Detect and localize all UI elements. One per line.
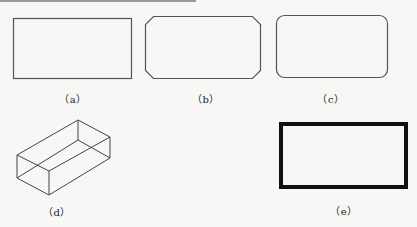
label-a: （a） (59, 91, 86, 106)
label-c: （c） (317, 91, 344, 106)
panel-c-rounded-rectangle (277, 16, 388, 78)
label-d: （d） (43, 204, 71, 219)
panel-e-thick-rectangle (281, 124, 406, 187)
figure-canvas (0, 0, 417, 227)
panel-d-3d-box (17, 120, 110, 195)
panel-b-chamfered-rectangle (146, 17, 261, 79)
label-e: （e） (330, 203, 357, 218)
label-b: （b） (192, 91, 220, 106)
panel-a-rectangle (14, 19, 132, 79)
